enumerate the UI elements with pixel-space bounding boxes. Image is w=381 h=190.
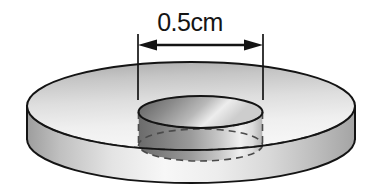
dimension-arrowhead-left-icon xyxy=(138,40,157,51)
dimension-arrowhead-right-icon xyxy=(244,40,263,51)
annulus-disc-figure: 0.5cm xyxy=(0,0,381,190)
disc-body xyxy=(27,62,355,183)
dimension-label-text: 0.5cm xyxy=(0,8,381,36)
